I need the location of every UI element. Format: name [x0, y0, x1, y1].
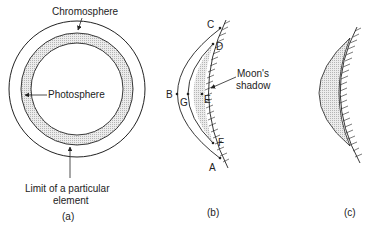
label-b: B — [166, 89, 173, 100]
caption-c: (c) — [344, 207, 356, 218]
point-b — [176, 93, 179, 96]
label-e: E — [204, 94, 211, 105]
point-a — [219, 157, 222, 160]
label-d: D — [216, 41, 223, 52]
limit-label-line1: Limit of a particular — [25, 183, 110, 194]
panel-b: C D B G E F A Moon's shadow (b) — [166, 19, 271, 218]
limit-label-line2: element — [53, 195, 89, 206]
eclipse-diagram: Chromosphere Photosphere Limit of a part… — [0, 0, 371, 225]
moon-shadow-label-line1: Moon's — [237, 68, 269, 79]
moon-shadow-arrow — [211, 77, 236, 88]
panel-c: (c) — [319, 27, 362, 218]
point-c — [219, 27, 222, 30]
moon-shadow-label-line2: shadow — [236, 80, 271, 91]
point-e — [201, 93, 204, 96]
point-f — [212, 142, 215, 145]
caption-b: (b) — [207, 207, 219, 218]
label-c: C — [207, 19, 214, 30]
point-g — [187, 93, 190, 96]
shaded-crescent-c — [319, 38, 350, 146]
panel-a: Chromosphere Photosphere Limit of a part… — [9, 6, 145, 222]
label-g: G — [180, 97, 188, 108]
point-d — [212, 43, 215, 46]
photosphere-label: Photosphere — [48, 89, 105, 100]
caption-a: (a) — [62, 211, 74, 222]
label-f: F — [218, 137, 224, 148]
chromosphere-label: Chromosphere — [52, 6, 119, 17]
label-a: A — [209, 162, 216, 173]
